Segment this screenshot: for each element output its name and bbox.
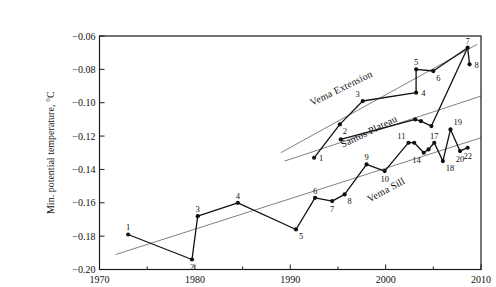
point-label: 9 [364, 152, 368, 162]
series-name-label-santos-plateau: Santos Plateau [339, 113, 399, 150]
data-point-vema-sill [422, 151, 426, 155]
data-point-vema-sill [432, 141, 436, 145]
data-point-vema-sill [383, 169, 387, 173]
point-label: 1 [319, 153, 323, 163]
point-label: 3 [355, 89, 359, 99]
data-point-vema-sill [364, 162, 368, 166]
point-label: 8 [348, 196, 352, 206]
data-point-vema-sill [466, 146, 470, 150]
y-axis-tick-label: −0.18 [72, 231, 95, 242]
data-point-vema-sill [236, 201, 240, 205]
y-axis-tick-label: −0.06 [72, 31, 95, 42]
point-label: 5 [299, 231, 303, 241]
point-label: 6 [313, 186, 317, 196]
point-label: 7 [330, 204, 334, 214]
data-point-santos-plateau [419, 119, 423, 123]
point-label: 2 [343, 126, 347, 136]
y-axis-tick-label: −0.12 [72, 131, 95, 142]
data-point-vema-sill [196, 214, 200, 218]
series-line-vema-sill [128, 129, 468, 259]
data-point-vema-sill [190, 257, 194, 261]
data-point-vema-sill [330, 199, 334, 203]
series-line-vema-extension [314, 48, 470, 158]
point-label: 22 [463, 151, 472, 161]
y-axis-tick-label: −0.14 [72, 164, 95, 175]
data-point-vema-extension [431, 69, 435, 73]
data-point-santos-plateau [413, 117, 417, 121]
point-label: 3 [196, 204, 200, 214]
data-point-vema-extension [467, 62, 471, 66]
point-label: 17 [430, 131, 439, 141]
x-axis-tick-label: 1970 [90, 274, 110, 285]
data-point-vema-extension [414, 91, 418, 95]
point-label: 7 [466, 36, 470, 46]
y-axis-tick-label: −0.16 [72, 197, 95, 208]
data-point-vema-extension [414, 67, 418, 71]
data-point-vema-extension [338, 122, 342, 126]
series-line-santos-plateau [341, 48, 468, 140]
data-point-vema-sill [294, 227, 298, 231]
temperature-time-series-chart: 123456781234567891011141718192022Vema Ex… [40, 16, 496, 287]
data-point-vema-sill [343, 192, 347, 196]
point-label: 14 [412, 155, 421, 165]
point-label: 4 [236, 191, 241, 201]
data-point-vema-extension [466, 46, 470, 50]
x-axis-tick-label: 2000 [376, 274, 396, 285]
x-axis-tick-label: 1990 [280, 274, 300, 285]
data-point-vema-sill [406, 141, 410, 145]
data-point-vema-sill [448, 127, 452, 131]
point-label: 4 [421, 88, 426, 98]
y-axis-tick-label: −0.08 [72, 64, 95, 75]
point-label: 19 [453, 117, 462, 127]
data-point-vema-extension [312, 156, 316, 160]
data-point-vema-sill [441, 159, 445, 163]
chart-canvas: 123456781234567891011141718192022Vema Ex… [40, 16, 496, 287]
point-label: 2 [190, 262, 194, 272]
data-point-vema-sill [313, 196, 317, 200]
data-point-vema-extension [361, 99, 365, 103]
y-axis-title: Min. potential temperature, °C [45, 91, 56, 214]
y-axis-tick-label: −0.20 [72, 264, 95, 275]
data-point-santos-plateau [429, 124, 433, 128]
point-label: 11 [397, 131, 405, 141]
data-point-vema-sill [126, 232, 130, 236]
data-point-vema-sill [412, 141, 416, 145]
y-axis-tick-label: −0.10 [72, 97, 95, 108]
data-point-vema-sill [458, 149, 462, 153]
x-axis-tick-label: 2010 [471, 274, 491, 285]
point-label: 6 [436, 73, 440, 83]
x-axis-tick-label: 1980 [185, 274, 205, 285]
point-label: 18 [446, 163, 455, 173]
data-point-vema-sill [426, 147, 430, 151]
point-label: 5 [414, 57, 418, 67]
point-label: 1 [126, 222, 130, 232]
point-label: 8 [475, 60, 479, 70]
